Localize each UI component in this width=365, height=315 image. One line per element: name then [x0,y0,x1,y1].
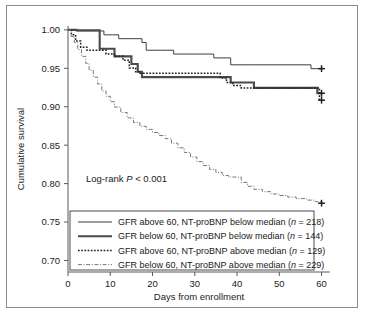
x-tick-label: 50 [274,278,285,289]
y-tick-label: 0.85 [42,140,61,151]
logrank-label: Log-rank [86,173,124,184]
survival-curve-2 [68,30,322,93]
censor-mark-series-3 [318,97,325,104]
x-tick-label: 60 [316,278,327,289]
x-axis-title: Days from enrollment [154,291,245,302]
y-tick-label: 0.75 [42,216,61,227]
x-tick-label: 20 [147,278,158,289]
y-tick-label: 0.90 [42,101,61,112]
censor-marks [318,65,325,206]
x-axis-ticks: 0102030405060 [65,272,326,289]
legend-label-1: GFR above 60, NT-proBNP below median (n … [118,217,324,227]
chart-svg: 0.700.750.800.850.900.951.00 01020304050… [0,0,365,315]
logrank-pvalue: < 0.001 [135,173,167,184]
x-tick-label: 10 [105,278,116,289]
logrank-annotation: Log-rank P < 0.001 [86,173,167,184]
y-axis-title: Cumulative survival [15,108,26,190]
x-tick-label: 0 [65,278,70,289]
legend-label-4: GFR below 60, NT-proBNP above median (n … [118,260,324,270]
legend-label-2: GFR below 60, NT-proBNP below median (n … [118,231,323,241]
legend: GFR above 60, NT-proBNP below median (n … [70,211,325,270]
kaplan-meier-chart: 0.700.750.800.850.900.951.00 01020304050… [0,0,365,315]
legend-label-3: GFR above 60, NT-proBNP above median (n … [118,246,325,256]
x-tick-label: 30 [189,278,200,289]
y-tick-label: 0.95 [42,63,61,74]
y-axis-ticks: 0.700.750.800.850.900.951.00 [42,24,69,266]
y-tick-label: 0.70 [42,255,61,266]
y-tick-label: 1.00 [42,24,61,35]
svg-text:Log-rank P < 0.001: Log-rank P < 0.001 [86,173,167,184]
censor-mark-series-4 [318,200,325,207]
x-tick-label: 40 [232,278,243,289]
censor-mark-series-1 [318,65,325,72]
y-tick-label: 0.80 [42,178,61,189]
